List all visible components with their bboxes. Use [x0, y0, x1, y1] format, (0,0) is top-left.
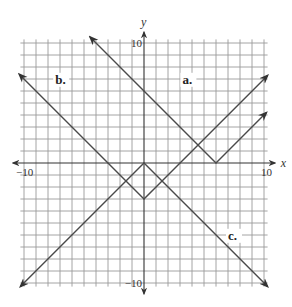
- y-tick-label: −10: [125, 277, 143, 289]
- curve-label-a: a.: [182, 72, 192, 87]
- curve-label-c: c.: [228, 228, 237, 243]
- y-axis-title: y: [140, 15, 147, 29]
- graph-figure: −101010−10 a.b.c. x y: [0, 0, 292, 307]
- curve-b: [19, 74, 267, 199]
- curve-label-b: b.: [55, 72, 65, 87]
- x-axis-title: x: [280, 156, 287, 170]
- x-tick-label: 10: [261, 166, 273, 178]
- x-tick-label: −10: [16, 166, 34, 178]
- curve-labels: a.b.c.: [53, 72, 242, 243]
- y-tick-label: 10: [131, 37, 143, 49]
